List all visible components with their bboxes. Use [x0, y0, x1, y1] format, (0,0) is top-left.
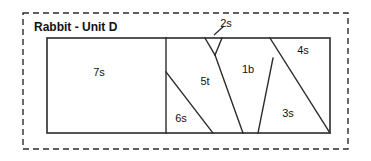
piece-3s-label: 3s [282, 107, 294, 119]
piece-2s-label: 2s [220, 17, 232, 29]
diagram-canvas: Rabbit - Unit D 7s6s5t2s1b3s4s [0, 0, 371, 161]
piece-6s-label: 6s [175, 112, 187, 124]
piece-1b-label: 1b [242, 63, 254, 75]
diagram-root: Rabbit - Unit D 7s6s5t2s1b3s4s [0, 0, 371, 161]
page-title: Rabbit - Unit D [34, 20, 118, 34]
piece-7s-label: 7s [93, 66, 105, 78]
piece-4s-label: 4s [297, 44, 309, 56]
piece-5t-label: 5t [200, 75, 209, 87]
